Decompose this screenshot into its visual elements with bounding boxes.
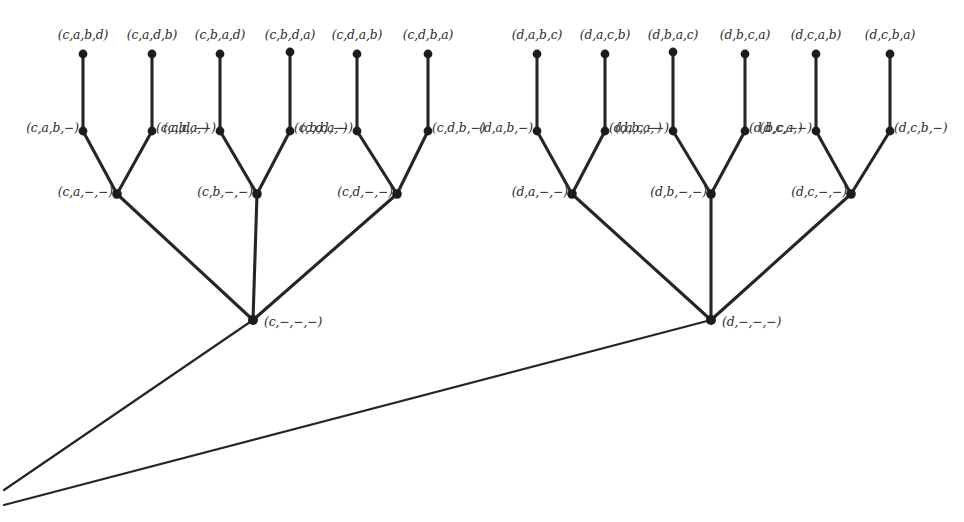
tree-node-leaf[interactable] — [148, 50, 157, 59]
tree-node-leaf[interactable] — [886, 50, 895, 59]
tree-edge-level3-level4 — [253, 194, 397, 320]
tree-node-level3[interactable] — [846, 189, 856, 199]
tree-edge-level2-level3 — [711, 131, 745, 194]
node-label-level3: (d,c,−,−) — [791, 186, 847, 198]
tree-node-level3[interactable] — [706, 189, 716, 199]
node-label-level2: (d,c,b,−) — [894, 122, 947, 134]
tree-edge-level3-level4 — [572, 194, 711, 320]
node-label-leaf: (c,a,d,b) — [127, 29, 177, 41]
node-label-leaf: (d,a,c,b) — [580, 29, 630, 41]
node-label-root: (d,−,−,−) — [722, 316, 781, 328]
tree-node-leaf[interactable] — [79, 50, 88, 59]
tree-node-leaf[interactable] — [424, 50, 433, 59]
node-label-level2: (c,d,b,−) — [432, 122, 485, 134]
tree-edge-level2-level3 — [117, 131, 152, 194]
node-label-level3: (c,b,−,−) — [197, 186, 253, 198]
tree-node-level3[interactable] — [252, 189, 262, 199]
node-label-level3: (c,d,−,−) — [337, 186, 393, 198]
node-label-leaf: (c,b,a,d) — [195, 29, 245, 41]
tree-node-leaf[interactable] — [533, 50, 542, 59]
tree-edges-svg — [0, 0, 964, 522]
node-label-leaf: (c,b,d,a) — [265, 29, 315, 41]
node-label-level3: (d,a,−,−) — [512, 186, 568, 198]
tree-edge-level2-level3 — [397, 131, 428, 194]
node-label-leaf: (c,d,b,a) — [403, 29, 453, 41]
node-label-leaf: (d,a,b,c) — [512, 29, 562, 41]
tree-node-leaf[interactable] — [812, 50, 821, 59]
tree-node-level3[interactable] — [112, 189, 122, 199]
tree-node-root[interactable] — [248, 315, 258, 325]
tree-node-level2[interactable] — [216, 127, 225, 136]
node-label-level2: (c,d,a,−) — [300, 122, 353, 134]
node-label-level3: (d,b,−,−) — [650, 186, 707, 198]
tree-edge-root — [4, 320, 711, 505]
node-label-level2: (d,b,a,−) — [615, 122, 669, 134]
tree-node-leaf[interactable] — [216, 50, 225, 59]
tree-edge-level3-level4 — [253, 194, 257, 320]
tree-edge-level3-level4 — [117, 194, 253, 320]
node-label-leaf: (d,b,c,a) — [720, 29, 770, 41]
tree-edge-level2-level3 — [572, 131, 605, 194]
node-label-root: (c,−,−,−) — [264, 316, 322, 328]
node-label-leaf: (d,c,a,b) — [791, 29, 841, 41]
edge-group-level3-level4 — [117, 194, 851, 320]
tree-node-leaf[interactable] — [286, 48, 295, 57]
node-label-leaf: (c,a,b,d) — [58, 29, 108, 41]
node-label-level2: (c,a,b,−) — [26, 122, 79, 134]
tree-node-level2[interactable] — [533, 127, 542, 136]
figure-canvas: (c,a,b,d)(c,a,d,b)(c,b,a,d)(c,b,d,a)(c,d… — [0, 0, 964, 522]
edge-group-leaf-level2 — [83, 52, 890, 131]
node-label-level2: (d,a,b,−) — [479, 122, 533, 134]
node-label-leaf: (d,c,b,a) — [865, 29, 915, 41]
tree-node-leaf[interactable] — [669, 48, 678, 57]
tree-node-level2[interactable] — [669, 127, 678, 136]
node-label-leaf: (d,b,a,c) — [648, 29, 698, 41]
tree-node-level3[interactable] — [567, 189, 577, 199]
tree-node-level2[interactable] — [812, 127, 821, 136]
node-label-level2: (c,b,a,−) — [163, 122, 216, 134]
tree-node-leaf[interactable] — [601, 50, 610, 59]
tree-edge-level3-level4 — [711, 194, 851, 320]
edge-group-root — [4, 320, 711, 505]
tree-node-level3[interactable] — [392, 189, 402, 199]
tree-node-root[interactable] — [706, 315, 716, 325]
tree-edge-root — [4, 320, 253, 490]
node-label-level3: (c,a,−,−) — [58, 186, 113, 198]
node-label-level2: (d,c,a,−) — [759, 122, 812, 134]
node-label-leaf: (c,d,a,b) — [332, 29, 382, 41]
tree-node-leaf[interactable] — [741, 50, 750, 59]
tree-node-leaf[interactable] — [353, 50, 362, 59]
tree-node-level2[interactable] — [79, 127, 88, 136]
tree-edge-level2-level3 — [851, 131, 890, 194]
tree-node-level2[interactable] — [353, 127, 362, 136]
tree-edge-level2-level3 — [257, 131, 290, 194]
